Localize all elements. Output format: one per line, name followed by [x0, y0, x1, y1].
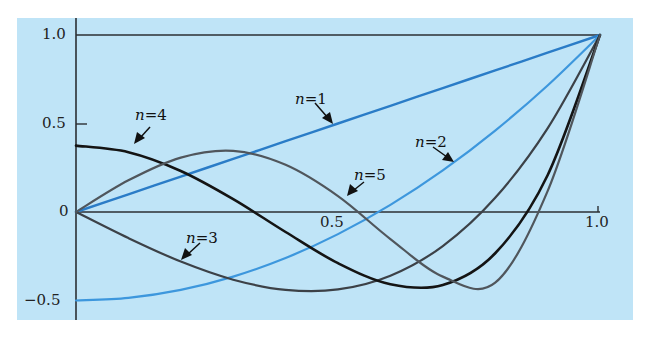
n-value: =3	[196, 229, 218, 247]
curves	[76, 35, 600, 301]
n-variable: n	[135, 106, 145, 124]
curve-label-n2: n=2	[415, 135, 447, 150]
n-variable: n	[354, 166, 364, 184]
n-value: =2	[425, 133, 447, 151]
x-tick-label-1.0: 1.0	[585, 215, 609, 230]
n-variable: n	[295, 90, 305, 108]
curve-label-n1: n=1	[295, 92, 327, 107]
n-value: =5	[364, 166, 386, 184]
n-variable: n	[186, 229, 196, 247]
plot-area	[17, 18, 633, 320]
axes	[76, 18, 600, 320]
y-tick-label-1.0: 1.0	[42, 27, 66, 42]
arrow-icon-n5	[347, 182, 364, 196]
curve-label-n4: n=4	[135, 108, 167, 123]
y-tick-label-neg0.5: −0.5	[24, 293, 60, 308]
n-value: =1	[305, 90, 327, 108]
n-variable: n	[415, 133, 425, 151]
y-tick-label-0: 0	[59, 204, 69, 219]
n-value: =4	[145, 106, 167, 124]
arrow-icon-n4	[134, 127, 150, 144]
curve-label-n3: n=3	[186, 231, 218, 246]
y-tick-label-0.5: 0.5	[42, 116, 66, 131]
x-tick-label-0.5: 0.5	[320, 215, 344, 230]
curve-n3	[76, 35, 600, 291]
curve-label-n5: n=5	[354, 168, 386, 183]
chart-panel: 1.0 0.5 0 −0.5 0.5 1.0 n=1 n=2 n=3 n=4 n…	[17, 18, 633, 320]
